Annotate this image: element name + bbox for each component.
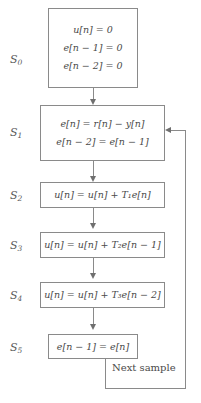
feedback-segment-down [105, 359, 106, 388]
equation-s1-1: e[n] = r[n] − y[n] [60, 119, 144, 129]
equation-s5-1: e[n − 1] = e[n] [57, 342, 129, 352]
feedback-segment-right [185, 130, 186, 388]
state-box-s2: u[n] = u[n] + T₁e[n] [40, 182, 165, 208]
equation-s2-1: u[n] = u[n] + T₁e[n] [54, 190, 151, 200]
equation-s0-3: e[n − 2] = 0 [63, 61, 122, 71]
state-label-s2: S2 [10, 189, 22, 203]
state-box-s4: u[n] = u[n] + T₃e[n − 2] [40, 282, 165, 308]
arrow-s3-s4 [90, 273, 96, 279]
equation-s1-2: e[n − 2] = e[n − 1] [56, 137, 148, 147]
feedback-segment-bottom [105, 388, 186, 389]
equation-s0-1: u[n] = 0 [73, 25, 113, 35]
state-label-s0: S0 [10, 53, 22, 67]
next-sample-label: Next sample [112, 362, 176, 373]
state-box-s5: e[n − 1] = e[n] [48, 334, 138, 359]
feedback-arrowhead [165, 127, 171, 133]
flowchart-diagram: S0 u[n] = 0 e[n − 1] = 0 e[n − 2] = 0 S1… [0, 0, 201, 403]
state-label-s3: S3 [10, 239, 22, 253]
state-label-s4: S4 [10, 289, 22, 303]
state-label-s5: S5 [10, 341, 22, 355]
state-box-s3: u[n] = u[n] + T₂e[n − 1] [40, 232, 165, 258]
state-box-s1: e[n] = r[n] − y[n] e[n − 2] = e[n − 1] [40, 105, 165, 161]
equation-s0-2: e[n − 1] = 0 [63, 43, 122, 53]
arrow-s2-s3 [90, 223, 96, 229]
arrow-s4-s5 [90, 324, 96, 330]
equation-s4-1: u[n] = u[n] + T₃e[n − 2] [44, 290, 161, 300]
feedback-segment-top [171, 130, 186, 131]
equation-s3-1: u[n] = u[n] + T₂e[n − 1] [44, 240, 161, 250]
state-box-s0: u[n] = 0 e[n − 1] = 0 e[n − 2] = 0 [48, 8, 138, 88]
state-label-s1: S1 [10, 126, 22, 140]
